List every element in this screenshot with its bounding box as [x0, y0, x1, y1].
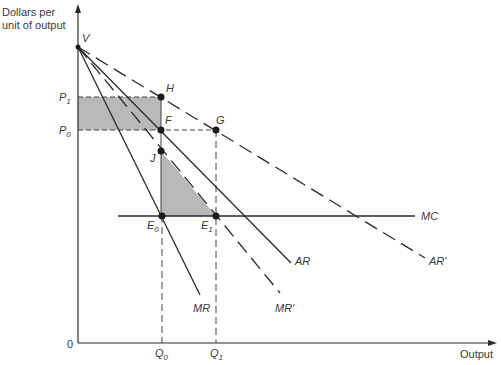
price-label-p0: P0 — [59, 124, 71, 139]
y-axis-label-line1: Dollars per — [2, 6, 56, 18]
quantity-label-q0: Q0 — [155, 347, 169, 362]
mr-prime-curve — [78, 47, 280, 293]
point-g — [213, 127, 220, 134]
label-ar-prime: AR' — [428, 255, 447, 267]
label-v: V — [82, 32, 91, 44]
shaded-rectangle-area — [78, 97, 161, 130]
label-mr-prime: MR' — [275, 302, 295, 314]
price-label-p1: P1 — [59, 91, 71, 106]
label-g: G — [216, 114, 225, 126]
label-f: F — [165, 114, 173, 126]
label-ar: AR — [294, 255, 310, 267]
y-axis-arrow-icon — [75, 4, 81, 13]
point-j — [158, 148, 165, 155]
origin-label: 0 — [67, 338, 73, 350]
ar-curve — [78, 47, 291, 263]
point-f — [158, 127, 165, 134]
point-e0 — [159, 213, 166, 220]
quantity-label-q1: Q1 — [210, 347, 223, 362]
monopoly-diagram: Dollars per unit of output Output 0 P1 P… — [0, 0, 501, 365]
label-e0: E0 — [147, 219, 159, 234]
label-mc: MC — [421, 210, 438, 222]
label-j: J — [149, 152, 156, 164]
label-h: H — [166, 82, 174, 94]
x-axis-arrow-icon — [488, 340, 497, 346]
y-axis-label-line2: unit of output — [2, 19, 66, 31]
shaded-triangle-area — [161, 151, 216, 216]
label-mr: MR — [193, 302, 210, 314]
point-h — [158, 94, 165, 101]
x-axis-label: Output — [460, 348, 493, 360]
label-e1: E1 — [201, 219, 213, 234]
point-v — [76, 45, 81, 50]
point-e1 — [213, 213, 220, 220]
